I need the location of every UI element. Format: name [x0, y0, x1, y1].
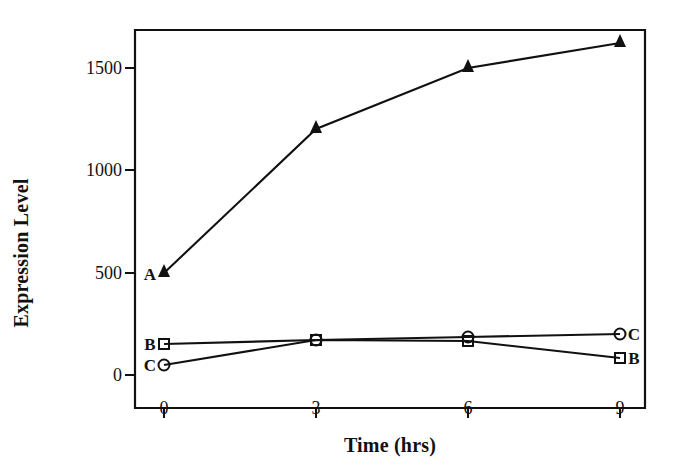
series-c-label-right: C: [628, 325, 640, 344]
x-axis-ticks: [164, 408, 620, 418]
series-b: B B: [144, 335, 639, 368]
series-a-markers: [158, 34, 626, 277]
series-c: C C: [144, 325, 640, 375]
series-a-line: [164, 43, 620, 273]
series-b-label-right: B: [628, 349, 639, 368]
plot-area: A B B C C: [0, 0, 684, 476]
series-b-line: [164, 340, 620, 358]
series-b-label-left: B: [144, 335, 155, 354]
series-a-label-left: A: [144, 265, 157, 284]
series-a: A: [144, 34, 626, 284]
chart-figure: Expression Level 1500 1000 500 0 0 3 6 9…: [0, 0, 684, 476]
series-c-label-left: C: [144, 356, 156, 375]
y-axis-ticks: [125, 68, 135, 375]
